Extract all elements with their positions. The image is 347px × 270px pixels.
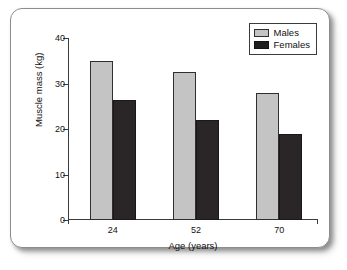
legend-swatch-icon	[254, 41, 269, 49]
legend-item-males[interactable]: Males	[254, 27, 310, 39]
bar-males-24[interactable]	[90, 61, 113, 220]
x-axis-tick-label: 52	[191, 226, 201, 235]
y-axis-tick-label: 30	[55, 79, 65, 88]
x-axis-cap-left	[68, 220, 69, 224]
bar-males-70[interactable]	[256, 93, 279, 220]
chart-legend: MalesFemales	[249, 23, 317, 55]
legend-swatch-icon	[254, 29, 269, 37]
bar-group: 52	[173, 38, 219, 220]
figure-card: 010203040 245270 Age (years) Muscle mass…	[10, 8, 330, 248]
y-axis-tick-label: 0	[60, 216, 65, 225]
bar-group: 70	[256, 38, 302, 220]
plot-area: 010203040 245270	[68, 38, 318, 220]
bar-males-52[interactable]	[173, 72, 196, 220]
legend-label: Males	[274, 28, 299, 38]
y-axis-line	[68, 38, 69, 220]
legend-item-females[interactable]: Females	[254, 39, 310, 51]
bar-females-70[interactable]	[279, 134, 302, 220]
x-axis-title: Age (years)	[68, 241, 318, 251]
y-axis-title: Muscle mass (kg)	[34, 30, 44, 150]
bar-females-24[interactable]	[113, 100, 136, 220]
y-axis-tick-label: 10	[55, 170, 65, 179]
bar-group: 24	[90, 38, 136, 220]
y-axis-tick-label: 40	[55, 34, 65, 43]
legend-label: Females	[274, 40, 310, 50]
y-axis-tick-label: 20	[55, 125, 65, 134]
bar-females-52[interactable]	[196, 120, 219, 220]
x-axis-tick-label: 24	[108, 226, 118, 235]
x-axis-cap-right	[317, 220, 318, 224]
x-axis-tick-label: 70	[274, 226, 284, 235]
